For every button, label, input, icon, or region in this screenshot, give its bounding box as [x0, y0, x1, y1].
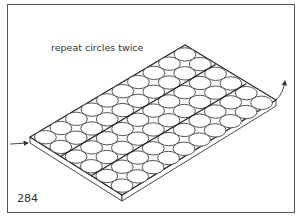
output-arrow: [276, 81, 285, 100]
diagram-caption: repeat circles twice: [51, 42, 143, 53]
circle-plate-diagram: [0, 0, 303, 220]
figure-number: 284: [17, 192, 38, 205]
input-arrow: [10, 143, 28, 144]
